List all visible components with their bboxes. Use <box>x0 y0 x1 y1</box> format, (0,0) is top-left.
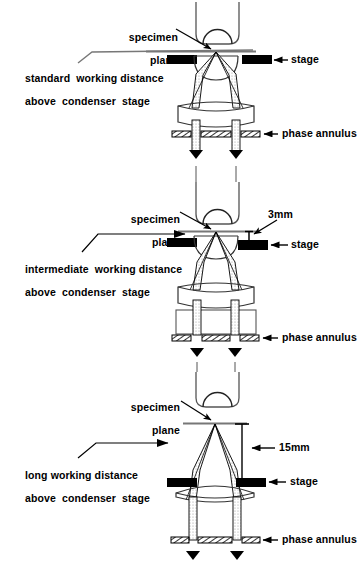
ray-bundle-3 <box>186 424 244 500</box>
dimension-3mm-leader <box>254 220 277 234</box>
specimen-plane-leader-1 <box>176 29 211 49</box>
beam-arrowhead-left-2 <box>190 348 204 357</box>
caption-long: long working distance above condenser st… <box>13 458 150 516</box>
condenser-spacer-block-2 <box>176 310 256 334</box>
beam-arrowhead-right-1 <box>229 150 243 159</box>
stage-label-1: stage <box>291 54 319 66</box>
ray-parallel-3 <box>189 497 241 540</box>
dimension-label-3mm: 3mm <box>268 209 293 221</box>
beam-arrowhead-left-1 <box>189 150 203 159</box>
beam-arrowhead-left-3 <box>186 551 200 560</box>
stage-label-3: stage <box>290 476 318 488</box>
stage-bar-right-1 <box>242 55 272 64</box>
beam-arrowhead-right-2 <box>228 348 242 357</box>
phase-annulus-3 <box>171 537 260 543</box>
stage-label-2: stage <box>291 239 319 251</box>
specimen-plane-leader-3 <box>181 401 211 420</box>
phase-annulus-label-2: phase annulus <box>282 332 357 344</box>
specimen-plane-label-3: specimen plane <box>112 390 180 448</box>
caption-standard: standard working distance above condense… <box>13 61 164 119</box>
condenser-lower-lens-1 <box>178 102 254 127</box>
objective-housing-1 <box>196 2 239 44</box>
phase-annulus-label-1: phase annulus <box>282 128 357 140</box>
objective-housing-3 <box>196 372 239 407</box>
phase-annulus-label-3: phase annulus <box>282 534 357 546</box>
condenser-wide-lens-3 <box>176 486 254 502</box>
caption-intermediate: intermediate working distance above cond… <box>13 252 182 310</box>
phase-annulus-1 <box>172 131 260 137</box>
ray-parallel-2 <box>193 300 239 335</box>
specimen-plane-label-2: specimen plane <box>112 202 180 260</box>
stage-bar-right-3 <box>236 478 266 487</box>
dimension-label-15mm: 15mm <box>279 442 310 454</box>
beam-arrowhead-right-3 <box>230 551 244 560</box>
condenser-lower-lens-2 <box>178 283 254 308</box>
dimension-15mm <box>235 424 275 482</box>
objective-housing-2 <box>196 182 239 224</box>
stage-bar-left-3 <box>167 478 197 487</box>
phase-annulus-2 <box>172 335 259 341</box>
stage-bar-right-2 <box>238 240 268 250</box>
ray-bundle-2 <box>190 232 242 290</box>
